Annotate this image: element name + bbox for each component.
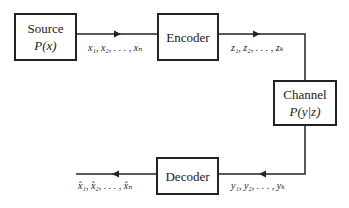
arrow-right-icon: [114, 31, 121, 38]
channel-label: Channel: [283, 86, 326, 103]
encoder-output-sequence: z₁, z₂, . . . , zₖ: [231, 42, 283, 53]
decoder-block: Decoder: [156, 157, 219, 195]
decoder-output-sequence: x̂₁, x̂₂, . . . , x̂ₙ: [78, 180, 132, 191]
channel-block: Channel P(y|z): [273, 80, 337, 126]
edge-encoder-channel: [218, 34, 305, 80]
encoder-label: Encoder: [166, 29, 209, 46]
source-distribution: P(x): [34, 37, 56, 54]
edge-channel-decoder: [219, 126, 305, 174]
channel-distribution: P(y|z): [289, 103, 320, 120]
decoder-label: Decoder: [165, 168, 209, 185]
arrow-right-icon: [253, 31, 260, 38]
source-output-sequence: x₁, x₂, . . . , xₙ: [88, 42, 142, 53]
source-block: Source P(x): [14, 13, 77, 61]
arrow-left-icon: [112, 171, 119, 178]
encoder-block: Encoder: [157, 13, 219, 61]
channel-output-sequence: y₁, y₂, . . . , yₖ: [231, 180, 285, 191]
source-label: Source: [27, 20, 63, 37]
arrow-left-icon: [259, 171, 266, 178]
